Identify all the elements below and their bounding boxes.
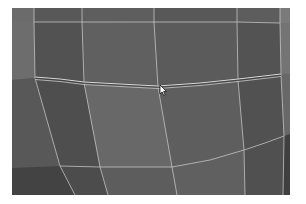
3d-viewport[interactable] bbox=[0, 0, 306, 204]
mesh-canvas[interactable] bbox=[0, 0, 306, 204]
mesh bbox=[12, 8, 290, 195]
